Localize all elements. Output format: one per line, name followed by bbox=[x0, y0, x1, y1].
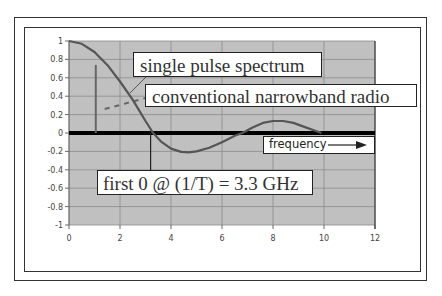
y-tick-label: -0.8 bbox=[47, 203, 63, 212]
y-tick-label: -0.4 bbox=[47, 166, 63, 175]
chart: 10.80.60.40.20-0.2-0.4-0.6-0.8-102468101… bbox=[0, 0, 442, 296]
y-tick-label: 0 bbox=[58, 129, 63, 138]
single-pulse-label: single pulse spectrum bbox=[133, 52, 322, 77]
y-tick-label: 0.8 bbox=[50, 55, 63, 64]
y-tick-label: -0.2 bbox=[47, 147, 63, 156]
x-tick-label: 6 bbox=[219, 234, 224, 243]
y-tick-label: 0.2 bbox=[50, 111, 63, 120]
y-tick-label: 1 bbox=[58, 37, 63, 46]
x-tick-label: 2 bbox=[117, 234, 122, 243]
x-tick-label: 8 bbox=[270, 234, 275, 243]
frequency-label-text: frequency bbox=[269, 137, 327, 151]
x-tick-label: 0 bbox=[66, 234, 71, 243]
y-tick-label: 0.4 bbox=[50, 92, 63, 101]
y-tick-label: 0.6 bbox=[50, 74, 63, 83]
x-tick-label: 10 bbox=[319, 234, 329, 243]
first-zero-label: first 0 @ (1/T) = 3.3 GHz bbox=[97, 170, 313, 195]
arrow-right-icon bbox=[328, 140, 368, 150]
y-tick-label: -1 bbox=[55, 221, 63, 230]
x-tick-label: 4 bbox=[168, 234, 173, 243]
y-tick-label: -0.6 bbox=[47, 184, 63, 193]
x-tick-label: 12 bbox=[370, 234, 380, 243]
narrowband-radio-label: conventional narrowband radio bbox=[145, 84, 417, 107]
frequency-axis-label: frequency bbox=[263, 136, 375, 154]
